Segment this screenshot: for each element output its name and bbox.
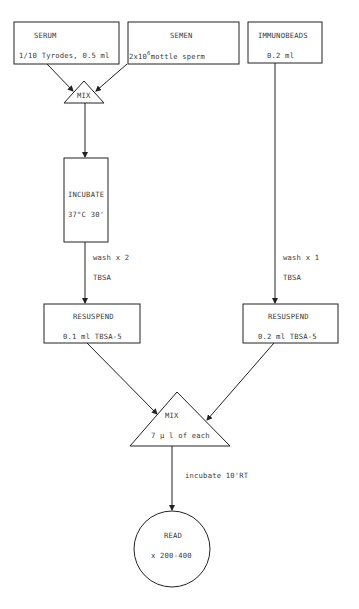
incubate-detail: 37°C 30' — [68, 210, 104, 219]
immunobeads-detail: 0.2 ml — [267, 51, 294, 60]
flowchart-canvas — [0, 0, 359, 609]
resuspend-left-detail: 0.1 ml TBSA-5 — [63, 332, 122, 341]
resuspend-right-detail: 0.2 ml TBSA-5 — [258, 332, 317, 341]
semen-detail: 2x106mottle sperm — [129, 50, 205, 61]
incubate-rt-label: incubate 10'RT — [185, 471, 248, 480]
mix2-title: MIX — [165, 411, 179, 420]
semen-detail-suffix: mottle sperm — [151, 52, 205, 61]
mix1-label: MIX — [77, 91, 91, 100]
serum-to-mix-arrow — [47, 64, 73, 91]
tbsa-left-label: TBSA — [93, 273, 111, 282]
semen-to-mix-arrow — [96, 64, 127, 91]
wash-x2-label: wash x 2 — [93, 253, 129, 262]
immunobeads-title: IMMUNOBEADS — [258, 31, 308, 40]
resuspend-left-title: RESUSPEND — [73, 312, 114, 321]
semen-title: SEMEN — [170, 31, 193, 40]
serum-title: SERUM — [34, 31, 57, 40]
tbsa-right-label: TBSA — [283, 273, 301, 282]
read-detail: x 200-400 — [151, 551, 192, 560]
incubate-box — [64, 158, 108, 242]
wash-x1-label: wash x 1 — [283, 253, 319, 262]
serum-detail: 1/10 Tyrodes, 0.5 ml — [19, 51, 110, 60]
resuspend-left-to-mix2-arrow — [87, 343, 157, 414]
read-title: READ — [164, 531, 182, 540]
resuspend-right-to-mix2-arrow — [207, 343, 274, 420]
mix2-detail: 7 µ l of each — [151, 431, 210, 440]
incubate-title: INCUBATE — [68, 190, 104, 199]
semen-detail-prefix: 2x10 — [129, 52, 147, 61]
read-circle — [134, 511, 210, 587]
resuspend-right-title: RESUSPEND — [268, 312, 309, 321]
